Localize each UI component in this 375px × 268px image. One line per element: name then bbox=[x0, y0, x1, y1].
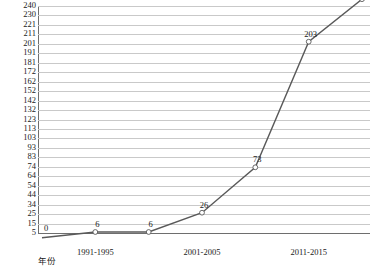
data-point-label: 0 bbox=[44, 224, 48, 233]
data-point-label: 6 bbox=[95, 220, 99, 229]
x-axis-tick-label: 1991-1995 bbox=[77, 247, 114, 257]
data-point-marker bbox=[360, 0, 365, 2]
data-point-label: 73 bbox=[253, 155, 262, 164]
data-point-marker bbox=[93, 230, 98, 235]
series-markers bbox=[93, 0, 365, 234]
data-point-label: 6 bbox=[149, 220, 153, 229]
data-point-marker bbox=[200, 210, 205, 215]
y-axis-tick-labels: 2402302212112011911811721621521421321231… bbox=[0, 6, 36, 233]
x-axis-title: 年份 bbox=[38, 256, 56, 266]
data-point-marker bbox=[306, 39, 311, 44]
x-axis-tick-label: 2011-2015 bbox=[290, 247, 327, 257]
data-point-marker bbox=[253, 165, 258, 170]
y-axis-tick-label: 5 bbox=[32, 228, 36, 237]
line-chart: 2402302212112011911811721621521421321231… bbox=[0, 0, 375, 268]
x-axis-tick-label: 2001-2005 bbox=[184, 247, 221, 257]
data-point-marker bbox=[146, 230, 151, 235]
data-point-label: 26 bbox=[200, 201, 209, 210]
data-point-label: 203 bbox=[304, 30, 317, 39]
